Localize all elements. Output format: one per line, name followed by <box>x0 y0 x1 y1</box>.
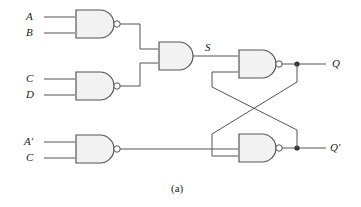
wire-nand-cd-to-and <box>120 63 158 86</box>
gate-nand-anot-c <box>76 135 120 163</box>
signal-label-s: S <box>205 42 211 53</box>
output-label-q: Q <box>332 58 340 69</box>
input-label-a: A <box>26 11 33 22</box>
gate-nand-qnot <box>239 134 282 162</box>
output-label-q-not: Q′ <box>330 142 340 153</box>
input-label-b: B <box>26 27 33 38</box>
gate-nand-q <box>239 50 282 78</box>
input-label-c-bottom: C <box>26 152 33 163</box>
input-label-a-not: A′ <box>24 136 33 147</box>
circuit-diagram <box>0 0 361 207</box>
gate-and-s <box>159 42 193 70</box>
gate-nand-cd <box>76 72 120 100</box>
input-label-c-top: C <box>26 73 33 84</box>
input-label-d: D <box>26 89 34 100</box>
wire-nand-ab-to-and <box>120 24 158 49</box>
gate-nand-ab <box>76 10 120 38</box>
logic-circuit-figure: A B C D A′ C S Q Q′ (a) <box>0 0 361 207</box>
figure-caption: (a) <box>171 183 183 194</box>
